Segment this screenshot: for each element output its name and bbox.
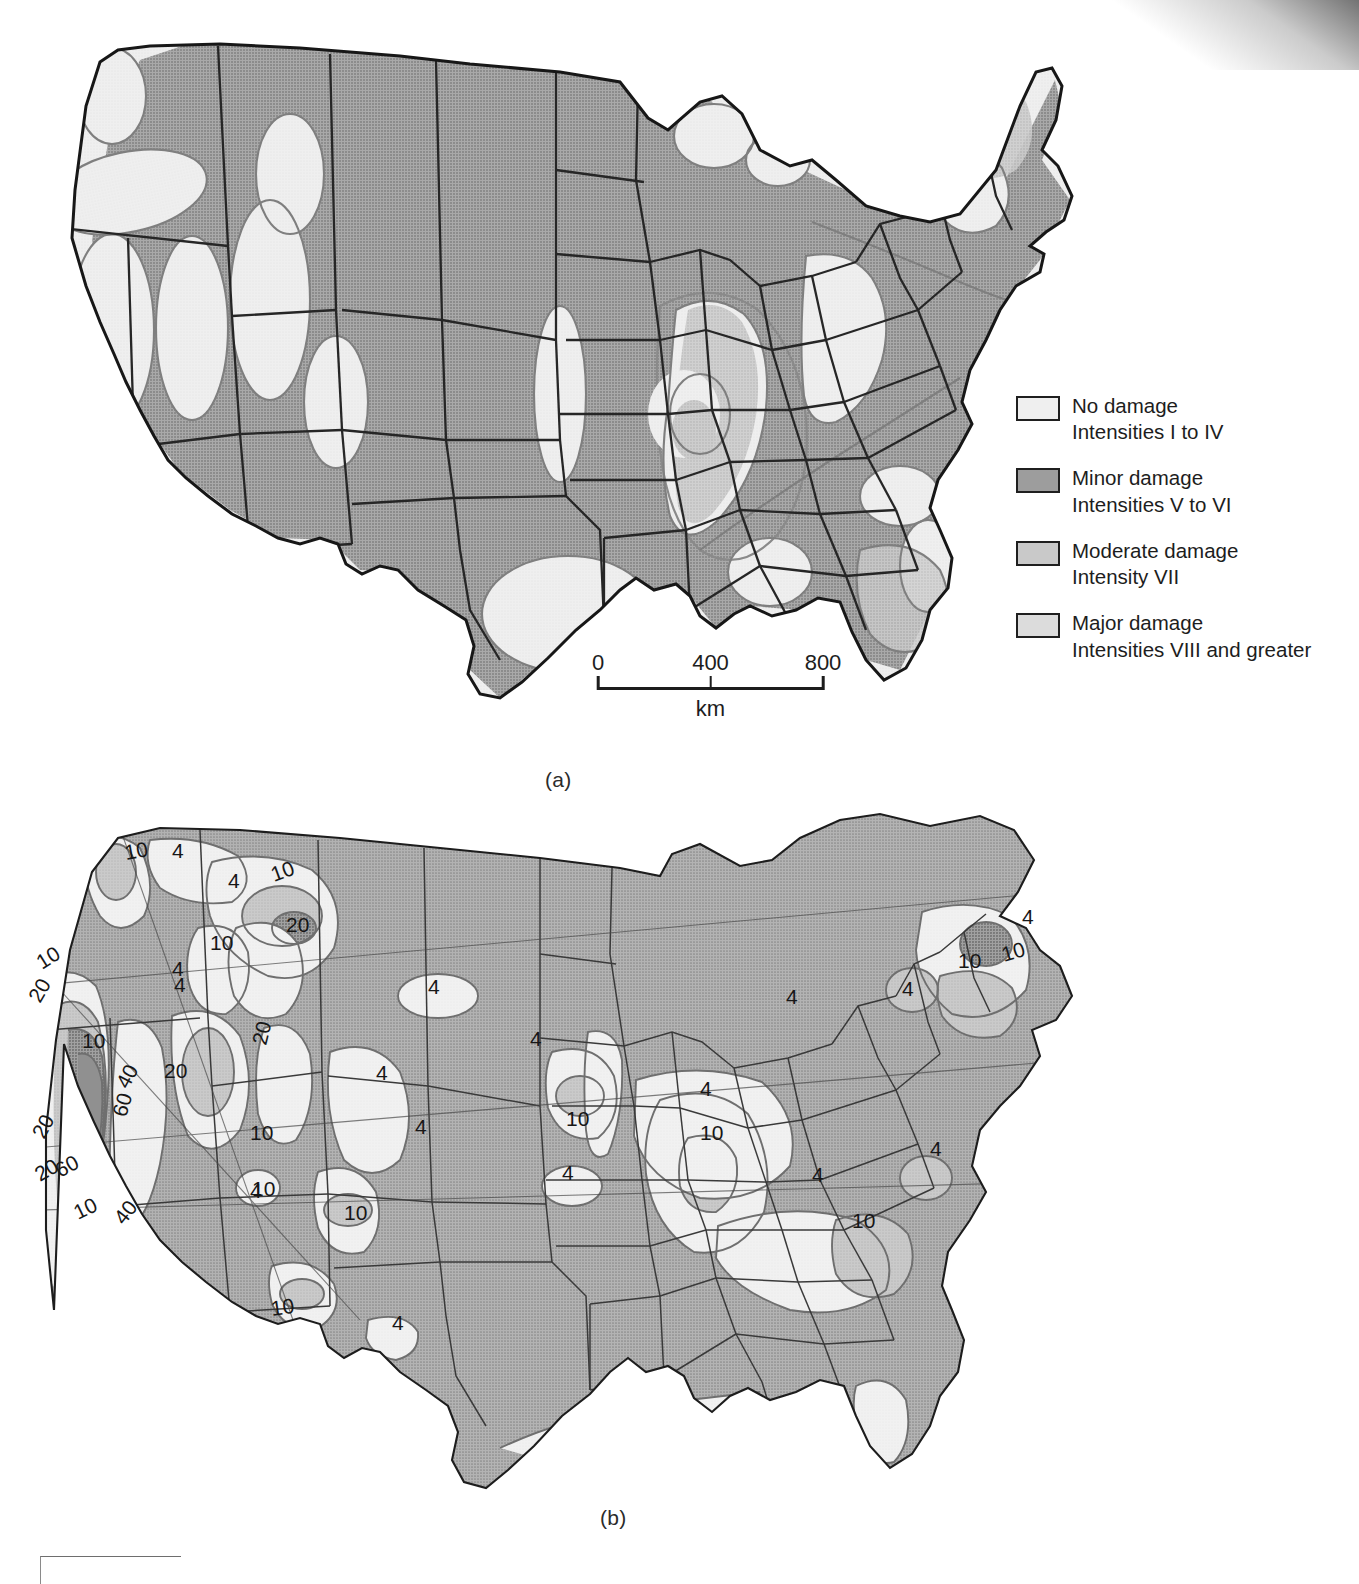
legend-item-major-damage: Major damage Intensities VIII and greate… xyxy=(1016,610,1346,662)
contour-label-10-sarizona: 10 xyxy=(269,1294,295,1320)
contour-label-4-missouri: 4 xyxy=(700,1077,712,1100)
scalebar-a-label-800: 800 xyxy=(805,650,842,676)
contour-label-10-newyork-east: 10 xyxy=(958,949,981,972)
scalebar-a-tick-2 xyxy=(822,676,825,690)
scalebar-a-tick-0 xyxy=(597,676,600,690)
contour-label-20-ccal-east: 20 xyxy=(164,1059,187,1082)
legend-label-major-damage-line2: Intensities VIII and greater xyxy=(1072,637,1311,663)
legend-swatch-moderate-damage xyxy=(1016,541,1060,566)
scalebar-a-unit: km xyxy=(598,696,823,722)
legend-label-moderate-damage-line1: Moderate damage xyxy=(1072,539,1238,562)
panel-a-caption: (a) xyxy=(545,768,572,792)
us-ground-acceleration-contour-map: 10 4 4 10 20 10 4 10 20 10 40 20 60 20 1… xyxy=(0,800,1359,1560)
contour-label-10-oregon: 10 xyxy=(32,942,64,974)
contour-label-4-colorado: 4 xyxy=(376,1061,388,1084)
legend-item-no-damage: No damage Intensities I to IV xyxy=(1016,393,1346,445)
contour-label-4-wisconsin: 4 xyxy=(786,985,798,1008)
contour-label-4-utah: 4 xyxy=(174,973,186,996)
legend-swatch-minor-damage xyxy=(1016,468,1060,493)
contour-label-4-virginia: 4 xyxy=(930,1137,942,1160)
contour-label-4-ewa: 4 xyxy=(172,839,184,862)
legend-damage-intensity: No damage Intensities I to IV Minor dama… xyxy=(1016,393,1346,683)
contour-label-10-scal-inland: 10 xyxy=(70,1193,101,1224)
contour-label-4-wtexas: 4 xyxy=(392,1311,404,1334)
legend-label-major-damage-line1: Major damage xyxy=(1072,611,1203,634)
contour-label-4-newyork: 4 xyxy=(902,977,914,1000)
legend-item-moderate-damage: Moderate damage Intensity VII xyxy=(1016,538,1346,590)
legend-label-minor-damage-line2: Intensities V to VI xyxy=(1072,492,1232,518)
contour-label-4-nebraska: 4 xyxy=(530,1027,542,1050)
contour-label-4-tennessee: 4 xyxy=(812,1163,824,1186)
figure-page: No damage Intensities I to IV Minor dama… xyxy=(0,0,1359,1584)
legend-label-no-damage-line1: No damage xyxy=(1072,394,1178,417)
scalebar-a-line xyxy=(598,676,823,690)
contour-label-20-ncal-coast: 20 xyxy=(24,974,56,1006)
legend-label-no-damage-line2: Intensities I to IV xyxy=(1072,419,1224,445)
contour-label-4-montana-plains: 4 xyxy=(428,975,440,998)
scalebar-panel-a: 0 400 800 km xyxy=(598,650,823,722)
scalebar-a-label-0: 0 xyxy=(592,650,604,676)
panel-b-caption: (b) xyxy=(600,1506,627,1530)
contour-label-10-southcarolina: 10 xyxy=(852,1209,875,1232)
contour-label-10-nebraska-center: 10 xyxy=(566,1107,589,1130)
contour-label-10-cidaho: 10 xyxy=(210,931,233,954)
contour-label-4-newmexico: 4 xyxy=(250,1179,262,1202)
legend-label-minor-damage-line1: Minor damage xyxy=(1072,466,1203,489)
map-panel-a: No damage Intensities I to IV Minor dama… xyxy=(0,10,1359,810)
legend-label-moderate-damage: Moderate damage Intensity VII xyxy=(1072,538,1238,590)
contour-label-20-swmontana: 20 xyxy=(286,913,309,936)
legend-swatch-no-damage xyxy=(1016,396,1060,421)
legend-item-minor-damage: Minor damage Intensities V to VI xyxy=(1016,465,1346,517)
map-panel-b: 10 4 4 10 20 10 4 10 20 10 40 20 60 20 1… xyxy=(0,800,1359,1560)
contour-label-4-nidaho: 4 xyxy=(228,869,240,892)
legend-swatch-major-damage xyxy=(1016,613,1060,638)
legend-label-major-damage: Major damage Intensities VIII and greate… xyxy=(1072,610,1311,662)
contour-label-4-warizona: 4 xyxy=(415,1115,427,1138)
scalebar-a-tick-1 xyxy=(709,676,712,690)
legend-label-moderate-damage-line2: Intensity VII xyxy=(1072,564,1238,590)
contour-label-4-oklahoma: 4 xyxy=(562,1161,574,1184)
contour-label-4-vermont: 4 xyxy=(1022,905,1034,928)
legend-label-minor-damage: Minor damage Intensities V to VI xyxy=(1072,465,1232,517)
legend-label-no-damage: No damage Intensities I to IV xyxy=(1072,393,1224,445)
contour-label-10-wyoming: 10 xyxy=(250,1121,273,1144)
page-border-fragment xyxy=(40,1556,181,1584)
scalebar-a-label-400: 400 xyxy=(692,650,729,676)
contour-label-10-newmadrid: 10 xyxy=(700,1121,723,1144)
contour-label-10-puget: 10 xyxy=(123,837,150,864)
scalebar-a-numbers: 0 400 800 xyxy=(598,650,823,676)
contour-label-10-ncal: 10 xyxy=(82,1029,105,1052)
contour-label-10-carizona: 10 xyxy=(344,1201,367,1224)
